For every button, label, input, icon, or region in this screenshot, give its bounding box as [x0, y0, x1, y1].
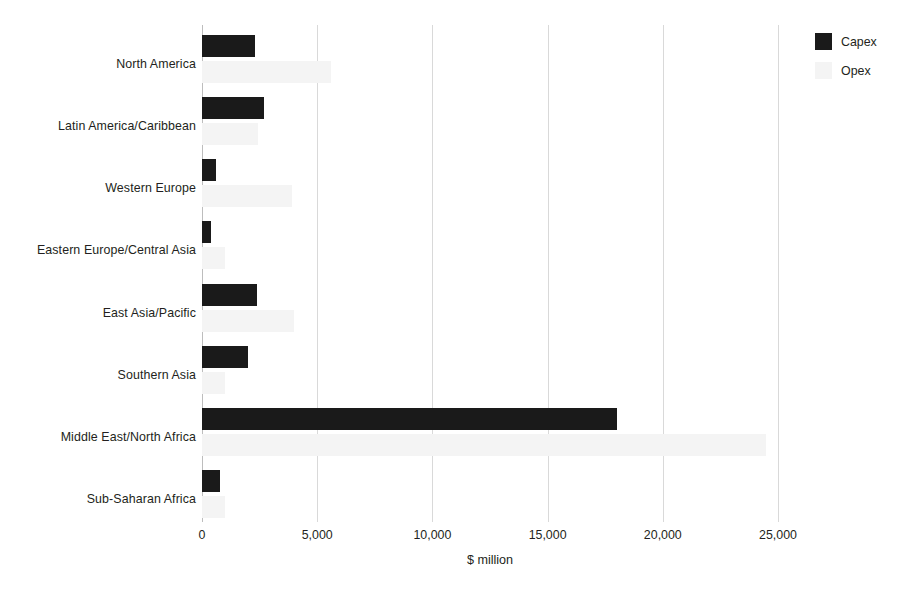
x-tick-label: 10,000 — [413, 528, 451, 542]
bar-capex[interactable] — [202, 35, 255, 57]
y-axis-label: East Asia/Pacific — [0, 306, 196, 320]
opex-swatch-icon — [815, 62, 832, 79]
y-axis-label: Southern Asia — [0, 368, 196, 382]
x-tick-label: 5,000 — [302, 528, 333, 542]
bar-capex[interactable] — [202, 159, 216, 181]
chart-legend: Capex Opex — [815, 27, 905, 85]
plot-area — [202, 25, 778, 522]
bar-group — [202, 460, 778, 522]
bar-capex[interactable] — [202, 97, 264, 119]
bar-capex[interactable] — [202, 470, 220, 492]
capex-swatch-icon — [815, 33, 832, 50]
x-tick-label: 15,000 — [529, 528, 567, 542]
x-axis-title: $ million — [202, 553, 778, 567]
legend-label-capex: Capex — [841, 35, 877, 49]
x-tick-label: 0 — [199, 528, 206, 542]
y-axis-label: Sub-Saharan Africa — [0, 492, 196, 506]
bar-group — [202, 25, 778, 87]
bar-group — [202, 211, 778, 273]
bar-group — [202, 398, 778, 460]
bar-opex[interactable] — [202, 310, 294, 332]
bar-capex[interactable] — [202, 346, 248, 368]
y-axis-label: North America — [0, 57, 196, 71]
x-tick-label: 25,000 — [759, 528, 797, 542]
bar-opex[interactable] — [202, 496, 225, 518]
bar-group — [202, 274, 778, 336]
y-axis-label: Latin America/Caribbean — [0, 119, 196, 133]
y-axis-label: Eastern Europe/Central Asia — [0, 243, 196, 257]
bar-opex[interactable] — [202, 434, 766, 456]
bar-opex[interactable] — [202, 372, 225, 394]
legend-item-opex[interactable]: Opex — [815, 56, 905, 85]
bar-capex[interactable] — [202, 221, 211, 243]
bar-opex[interactable] — [202, 61, 331, 83]
y-axis-category-labels: North AmericaLatin America/CaribbeanWest… — [0, 25, 196, 522]
bar-opex[interactable] — [202, 185, 292, 207]
bar-capex[interactable] — [202, 408, 617, 430]
bar-group — [202, 149, 778, 211]
y-axis-label: Western Europe — [0, 181, 196, 195]
gridline-25000 — [778, 25, 779, 522]
bar-opex[interactable] — [202, 247, 225, 269]
bar-chart: North AmericaLatin America/CaribbeanWest… — [0, 0, 908, 589]
legend-label-opex: Opex — [841, 64, 871, 78]
bar-opex[interactable] — [202, 123, 258, 145]
y-axis-label: Middle East/North Africa — [0, 430, 196, 444]
legend-item-capex[interactable]: Capex — [815, 27, 905, 56]
bar-group — [202, 336, 778, 398]
bar-capex[interactable] — [202, 284, 257, 306]
bar-group — [202, 87, 778, 149]
x-tick-label: 20,000 — [644, 528, 682, 542]
